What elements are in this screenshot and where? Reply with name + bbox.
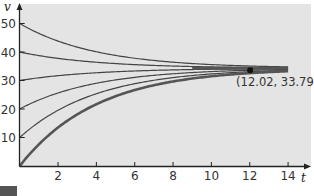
y-tick-label: 50 [1, 17, 16, 31]
highlight-point [247, 67, 253, 73]
x-tick-label: 8 [169, 169, 177, 183]
x-axis-label: t [301, 171, 306, 185]
x-tick-label: 6 [131, 169, 139, 183]
x-tick-label: 14 [280, 169, 295, 183]
y-tick-label: 20 [1, 103, 16, 117]
x-tick-label: 12 [242, 169, 257, 183]
x-tick-label: 10 [204, 169, 219, 183]
y-tick-label: 30 [1, 74, 16, 88]
y-tick-label: 10 [1, 131, 16, 145]
figure-marker [0, 186, 17, 196]
chart: 2468101214 1020304050 t v (12.02, 33.79) [0, 0, 314, 196]
x-tick-label: 4 [93, 169, 101, 183]
y-tick-label: 40 [1, 46, 16, 60]
x-tick-label: 2 [54, 169, 62, 183]
y-axis-label: v [4, 0, 11, 14]
point-annotation: (12.02, 33.79) [236, 75, 314, 89]
